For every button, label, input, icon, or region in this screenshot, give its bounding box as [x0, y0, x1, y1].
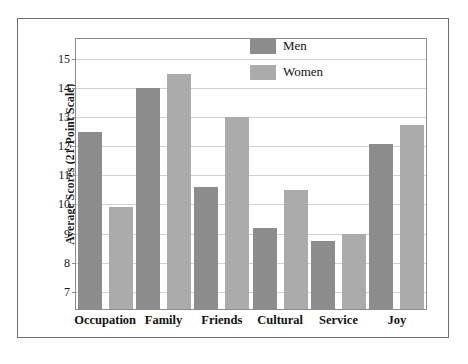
bar-occupation-men [78, 132, 102, 309]
bar-cultural-women [284, 190, 308, 309]
bar-friends-women [225, 117, 249, 309]
legend-label-women: Women [283, 64, 323, 80]
y-tick-label-9: 9 [64, 226, 70, 241]
legend-label-men: Men [283, 38, 307, 54]
y-tick-label-13: 13 [58, 110, 70, 125]
gridline-y-13 [76, 117, 426, 118]
x-category-label-service: Service [319, 313, 358, 328]
y-tick-label-10: 10 [58, 197, 70, 212]
y-tick-label-11: 11 [58, 168, 70, 183]
bar-friends-men [194, 187, 218, 309]
x-category-label-friends: Friends [201, 313, 242, 328]
y-tick-mark-14 [72, 88, 76, 89]
bar-family-women [167, 74, 191, 309]
y-tick-label-12: 12 [58, 139, 70, 154]
y-tick-mark-8 [72, 263, 76, 264]
bar-family-men [136, 88, 160, 309]
bar-cultural-men [253, 228, 277, 309]
legend-item-women: Women [250, 59, 323, 85]
y-tick-label-7: 7 [64, 284, 70, 299]
figure-caption [20, 345, 450, 361]
y-tick-label-8: 8 [64, 255, 70, 270]
y-tick-mark-7 [72, 292, 76, 293]
men-swatch [250, 39, 276, 54]
legend-item-men: Men [250, 33, 323, 59]
chart-page: Average Scores (21-Point Scale) 78910111… [0, 0, 468, 364]
bar-service-women [342, 234, 366, 309]
y-tick-mark-15 [72, 59, 76, 60]
bar-joy-women [400, 125, 424, 309]
bar-service-men [311, 241, 335, 309]
x-category-label-occupation: Occupation [74, 313, 136, 328]
y-tick-label-14: 14 [58, 81, 70, 96]
gridline-y-14 [76, 88, 426, 89]
figure-frame: Average Scores (21-Point Scale) 78910111… [17, 18, 449, 338]
chart-legend: MenWomen [250, 33, 323, 85]
bar-occupation-women [109, 207, 133, 309]
y-tick-mark-10 [72, 204, 76, 205]
women-swatch [250, 65, 276, 80]
y-tick-mark-12 [72, 146, 76, 147]
bar-joy-men [369, 144, 393, 309]
y-tick-mark-11 [72, 175, 76, 176]
y-tick-label-15: 15 [58, 52, 70, 67]
x-category-label-cultural: Cultural [257, 313, 303, 328]
x-category-label-family: Family [145, 313, 183, 328]
y-tick-mark-13 [72, 117, 76, 118]
y-tick-mark-9 [72, 234, 76, 235]
x-category-label-joy: Joy [387, 313, 406, 328]
